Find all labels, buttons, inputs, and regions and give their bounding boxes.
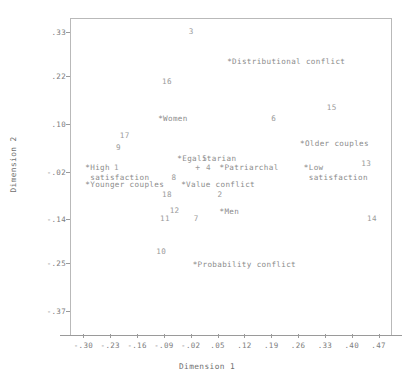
origin-plus-marker: + bbox=[195, 163, 200, 172]
category-point-label: *Patriarchal bbox=[220, 163, 279, 172]
numbered-point-label: 5 bbox=[202, 154, 207, 163]
x-tick-mark bbox=[298, 334, 299, 338]
y-tick-mark bbox=[66, 219, 70, 220]
x-tick-label: -.23 bbox=[101, 341, 120, 350]
numbered-point-label: 9 bbox=[116, 143, 121, 152]
x-tick-label: .40 bbox=[345, 341, 359, 350]
x-tick-mark bbox=[325, 334, 326, 338]
x-tick-mark bbox=[379, 334, 380, 338]
y-tick-mark bbox=[66, 32, 70, 33]
numbered-point-label: 12 bbox=[170, 206, 180, 215]
numbered-point-label: 8 bbox=[172, 173, 177, 182]
y-tick-mark bbox=[66, 311, 70, 312]
x-tick-mark bbox=[137, 334, 138, 338]
numbered-point-label: 7 bbox=[194, 214, 199, 223]
x-tick-label: .19 bbox=[264, 341, 278, 350]
x-tick-mark bbox=[271, 334, 272, 338]
y-tick-label: .10 bbox=[52, 120, 66, 129]
numbered-point-label: 16 bbox=[162, 77, 172, 86]
x-tick-mark bbox=[244, 334, 245, 338]
x-tick-mark bbox=[191, 334, 192, 338]
scatter-plot-figure: .33.22.10-.02-.14-.25-.37 *Distributiona… bbox=[0, 0, 414, 384]
category-point-label: *Low satisfaction bbox=[304, 163, 368, 181]
x-tick-label: .26 bbox=[291, 341, 305, 350]
x-tick-label: .47 bbox=[371, 341, 385, 350]
y-tick-label: .22 bbox=[52, 72, 66, 81]
numbered-point-label: 13 bbox=[361, 159, 371, 168]
x-tick-label: .12 bbox=[237, 341, 251, 350]
x-tick-label: .05 bbox=[210, 341, 224, 350]
x-axis-line bbox=[60, 335, 402, 336]
category-point-label: *Women bbox=[158, 114, 188, 123]
numbered-point-label: 1 bbox=[114, 163, 119, 172]
category-point-label: *Younger couples bbox=[85, 180, 164, 189]
x-tick-mark bbox=[110, 334, 111, 338]
x-tick-label: -.16 bbox=[127, 341, 146, 350]
x-tick-mark bbox=[352, 334, 353, 338]
numbered-point-label: 4 bbox=[206, 163, 211, 172]
category-point-label: *Men bbox=[220, 207, 240, 216]
y-tick-label: -.37 bbox=[47, 307, 66, 316]
y-tick-label: -.14 bbox=[47, 215, 66, 224]
x-tick-label: -.02 bbox=[181, 341, 200, 350]
numbered-point-label: 6 bbox=[271, 114, 276, 123]
y-tick-mark bbox=[66, 172, 70, 173]
category-point-label: *Value conflict bbox=[181, 180, 255, 189]
numbered-point-label: 15 bbox=[327, 103, 337, 112]
y-tick-mark bbox=[66, 124, 70, 125]
y-axis-tick-labels: .33.22.10-.02-.14-.25-.37 bbox=[24, 0, 66, 384]
category-point-label: *Distributional conflict bbox=[227, 57, 345, 66]
numbered-point-label: 17 bbox=[120, 131, 130, 140]
y-tick-label: -.25 bbox=[47, 259, 66, 268]
y-tick-label: -.02 bbox=[47, 168, 66, 177]
x-tick-label: .33 bbox=[318, 341, 332, 350]
x-axis-title: Dimension 1 bbox=[0, 362, 414, 371]
numbered-point-label: 11 bbox=[160, 214, 170, 223]
category-point-label: *Probability conflict bbox=[193, 260, 296, 269]
category-point-label: *Older couples bbox=[300, 139, 369, 148]
y-tick-mark bbox=[66, 263, 70, 264]
x-tick-mark bbox=[83, 334, 84, 338]
numbered-point-label: 2 bbox=[218, 190, 223, 199]
numbered-point-label: 3 bbox=[189, 27, 194, 36]
y-tick-mark bbox=[66, 76, 70, 77]
x-tick-label: -.30 bbox=[74, 341, 93, 350]
x-tick-mark bbox=[164, 334, 165, 338]
y-tick-label: .33 bbox=[52, 28, 66, 37]
x-tick-mark bbox=[218, 334, 219, 338]
numbered-point-label: 10 bbox=[156, 247, 166, 256]
numbered-point-label: 14 bbox=[367, 214, 377, 223]
y-axis-title: Dimension 2 bbox=[9, 125, 18, 205]
numbered-point-label: 18 bbox=[162, 190, 172, 199]
x-tick-label: -.09 bbox=[154, 341, 173, 350]
